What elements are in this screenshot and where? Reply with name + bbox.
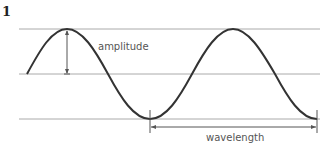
amplitude-label: amplitude (98, 41, 149, 52)
wavelength-arrow (150, 110, 317, 133)
amplitude-arrow (64, 30, 70, 74)
wave-diagram (0, 0, 332, 149)
wavelength-label: wavelength (206, 132, 264, 143)
